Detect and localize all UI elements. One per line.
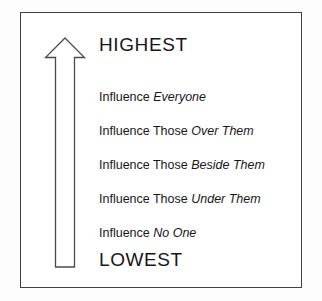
- level-lead-text: Influence Those: [99, 124, 191, 138]
- highest-label: HIGHEST: [99, 35, 188, 54]
- level-item-under-them: Influence Those Under Them: [99, 193, 261, 206]
- level-target-text: Under Them: [191, 192, 260, 206]
- level-lead-text: Influence Those: [99, 192, 191, 206]
- level-target-text: No One: [153, 226, 196, 240]
- scale-labels: HIGHEST Influence Everyone Influence Tho…: [99, 12, 299, 288]
- influence-scale-diagram: HIGHEST Influence Everyone Influence Tho…: [0, 0, 322, 301]
- level-item-everyone: Influence Everyone: [99, 91, 206, 104]
- level-lead-text: Influence: [99, 226, 153, 240]
- level-item-over-them: Influence Those Over Them: [99, 125, 254, 138]
- level-target-text: Over Them: [191, 124, 254, 138]
- level-target-text: Everyone: [153, 90, 206, 104]
- level-item-no-one: Influence No One: [99, 227, 196, 240]
- level-lead-text: Influence: [99, 90, 153, 104]
- level-target-text: Beside Them: [191, 158, 265, 172]
- level-lead-text: Influence Those: [99, 158, 191, 172]
- lowest-label: LOWEST: [99, 250, 183, 269]
- level-item-beside-them: Influence Those Beside Them: [99, 159, 265, 172]
